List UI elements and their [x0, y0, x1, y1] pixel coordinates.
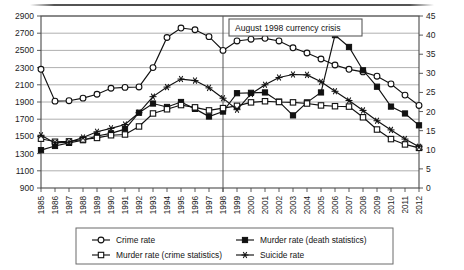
marker-open-circle [388, 81, 394, 87]
legend-label: Suicide rate [260, 250, 305, 260]
x-axis-tick-label: 1991 [121, 196, 130, 215]
marker-filled-square [374, 84, 379, 89]
marker-open-circle [374, 73, 380, 79]
annotation-callout: August 1998 currency crisis [229, 19, 362, 36]
marker-open-circle [248, 36, 254, 42]
marker-open-square [164, 107, 169, 112]
x-axis-tick-label: 1996 [191, 196, 200, 215]
series-murder-rate-crime-statistics [38, 99, 421, 151]
marker-open-square [402, 142, 407, 147]
chart-figure: 9001100130015001700190021002300250027002… [0, 0, 464, 270]
right-axis-tick-label: 45 [426, 11, 436, 21]
x-axis-tick-label: 2003 [289, 196, 298, 215]
x-axis-tick-label: 1985 [37, 196, 46, 215]
marker-star [178, 76, 185, 82]
legend-label: Murder rate (death statistics) [260, 235, 367, 245]
right-axis: 051015202530354045 [419, 11, 436, 193]
right-axis-tick-label: 30 [426, 68, 436, 78]
marker-open-square [360, 115, 365, 120]
x-axis-tick-label: 2007 [345, 196, 354, 215]
left-axis-tick-label: 1100 [16, 166, 35, 176]
right-axis-tick-label: 25 [426, 87, 436, 97]
left-axis-tick-label: 2500 [15, 45, 34, 55]
marker-open-circle [52, 98, 58, 104]
marker-open-square [332, 104, 337, 109]
marker-open-square [98, 252, 103, 257]
marker-open-square [178, 102, 183, 107]
marker-open-circle [192, 27, 198, 33]
multi-series-line-chart: 9001100130015001700190021002300250027002… [0, 0, 464, 270]
marker-open-square [276, 99, 281, 104]
marker-star [276, 75, 283, 81]
left-axis-tick-label: 1700 [15, 114, 34, 124]
x-axis: 1985198619871988198919901991199219931994… [37, 188, 424, 214]
marker-open-square [150, 111, 155, 116]
marker-filled-square [360, 68, 365, 73]
x-axis-tick-label: 2010 [387, 196, 396, 215]
left-axis-tick-label: 2100 [15, 80, 34, 90]
marker-open-circle [94, 91, 100, 97]
x-axis-tick-label: 1992 [135, 196, 144, 215]
x-axis-tick-label: 2005 [317, 196, 326, 215]
marker-open-square [318, 103, 323, 108]
x-axis-tick-label: 1995 [177, 196, 186, 215]
left-axis: 9001100130015001700190021002300250027002… [15, 11, 41, 193]
marker-filled-square [38, 148, 43, 153]
marker-open-circle [332, 62, 338, 68]
marker-open-square [136, 124, 141, 129]
marker-open-circle [108, 85, 114, 91]
marker-open-circle [150, 65, 156, 71]
left-axis-tick-label: 2900 [15, 11, 34, 21]
x-axis-tick-label: 1999 [233, 196, 242, 215]
x-axis-tick-label: 2002 [275, 196, 284, 215]
marker-open-circle [290, 45, 296, 51]
marker-open-circle [98, 237, 104, 243]
annotation-label: August 1998 currency crisis [235, 23, 341, 33]
legend-label: Crime rate [116, 235, 155, 245]
x-axis-tick-label: 2004 [303, 196, 312, 215]
marker-open-circle [136, 84, 142, 90]
legend-label: Murder rate (crime statistics) [116, 250, 222, 260]
series-crime-rate [38, 25, 422, 108]
marker-open-circle [220, 48, 226, 54]
marker-open-circle [346, 66, 352, 72]
x-axis-tick-label: 2009 [373, 196, 382, 215]
marker-filled-square [242, 237, 247, 242]
right-axis-tick-label: 0 [426, 183, 431, 193]
x-axis-tick-label: 1988 [79, 196, 88, 215]
marker-open-circle [122, 84, 128, 90]
marker-open-square [122, 132, 127, 137]
marker-open-square [108, 133, 113, 138]
marker-filled-square [150, 101, 155, 106]
marker-filled-square [318, 90, 323, 95]
marker-filled-square [262, 90, 267, 95]
marker-open-circle [416, 103, 422, 109]
right-axis-tick-label: 20 [426, 107, 436, 117]
marker-star [290, 71, 297, 77]
marker-filled-square [234, 91, 239, 96]
marker-open-square [192, 105, 197, 110]
marker-open-circle [206, 34, 212, 40]
x-axis-tick-label: 1989 [93, 196, 102, 215]
marker-open-square [248, 100, 253, 105]
marker-open-square [290, 100, 295, 105]
marker-filled-square [402, 111, 407, 116]
left-axis-tick-label: 900 [20, 183, 34, 193]
x-axis-tick-label: 1993 [149, 196, 158, 215]
chart-legend: Crime rateMurder rate (death statistics)… [76, 228, 393, 264]
x-axis-tick-label: 1990 [107, 196, 116, 215]
x-axis-tick-label: 2012 [415, 196, 424, 215]
marker-open-square [220, 105, 225, 110]
marker-open-square [374, 127, 379, 132]
marker-open-square [346, 104, 351, 109]
marker-open-circle [304, 50, 310, 56]
x-axis-tick-label: 1986 [51, 196, 60, 215]
marker-open-circle [38, 66, 44, 72]
marker-open-square [304, 101, 309, 106]
left-axis-tick-label: 2300 [15, 63, 34, 73]
marker-open-circle [178, 25, 184, 31]
left-axis-tick-label: 1300 [15, 149, 34, 159]
left-axis-tick-label: 1900 [15, 97, 34, 107]
left-axis-tick-label: 1500 [15, 131, 34, 141]
right-axis-tick-label: 15 [426, 126, 436, 136]
